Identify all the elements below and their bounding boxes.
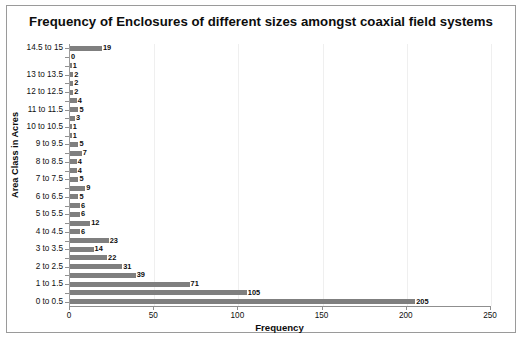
x-axis-line [69, 306, 490, 307]
x-tick-label-50: 50 [149, 311, 158, 320]
bar [70, 124, 72, 129]
bar-value-label: 31 [123, 263, 131, 270]
bar [70, 116, 75, 121]
bar-value-label: 2 [74, 79, 78, 86]
y-tick [65, 267, 69, 268]
bar [70, 63, 72, 68]
y-tick [65, 57, 69, 58]
bar-value-label: 1 [73, 123, 77, 130]
bar-value-label: 4 [78, 158, 82, 165]
chart-figure: Frequency of Enclosures of different siz… [0, 0, 523, 339]
bar-value-label: 0 [71, 53, 75, 60]
bar [70, 229, 80, 234]
y-tick [65, 179, 69, 180]
bar-value-label: 2 [74, 71, 78, 78]
gridline-x-200 [407, 44, 408, 306]
y-tick-label: 8 to 8.5 [3, 157, 63, 166]
x-tick-150 [322, 306, 323, 310]
y-tick-label: 13 to 13.5 [3, 70, 63, 79]
bar-value-label: 2 [74, 88, 78, 95]
bar [70, 107, 78, 112]
gridline-x-50 [154, 44, 155, 306]
y-tick [65, 232, 69, 233]
y-tick-label: 0 to 0.5 [3, 297, 63, 306]
bar [70, 212, 80, 217]
y-tick [65, 118, 69, 119]
y-tick [65, 214, 69, 215]
y-tick [65, 275, 69, 276]
y-tick [65, 171, 69, 172]
x-tick-label-200: 200 [399, 311, 413, 320]
bar [70, 90, 73, 95]
bar-value-label: 1 [73, 62, 77, 69]
y-tick-label: 6 to 6.5 [3, 192, 63, 201]
x-tick-label-0: 0 [67, 311, 72, 320]
bar-value-label: 9 [86, 184, 90, 191]
bar [70, 177, 78, 182]
y-tick [65, 293, 69, 294]
bar [70, 151, 82, 156]
bar-value-label: 7 [83, 149, 87, 156]
y-tick [65, 223, 69, 224]
y-tick-label: 14.5 to 15 [3, 43, 63, 52]
y-tick-label: 9 to 9.5 [3, 139, 63, 148]
bar-value-label: 1 [73, 132, 77, 139]
bar [70, 221, 90, 226]
bar [70, 247, 94, 252]
bar [70, 98, 77, 103]
bar-value-label: 12 [91, 219, 99, 226]
y-tick [65, 127, 69, 128]
y-tick [65, 206, 69, 207]
bar [70, 46, 102, 51]
y-tick [65, 188, 69, 189]
gridline-x-100 [238, 44, 239, 306]
bar [70, 159, 77, 164]
x-tick-250 [490, 306, 491, 310]
bar-value-label: 22 [108, 254, 116, 261]
y-tick [65, 75, 69, 76]
bar [70, 194, 78, 199]
bar [70, 273, 136, 278]
bar [70, 299, 415, 304]
bar-value-label: 3 [76, 114, 80, 121]
y-tick [65, 162, 69, 163]
bar [70, 282, 190, 287]
bar [70, 186, 85, 191]
y-tick-label: 2 to 2.5 [3, 262, 63, 271]
bar-value-label: 6 [81, 202, 85, 209]
gridline-x-150 [323, 44, 324, 306]
bar [70, 133, 72, 138]
y-tick-label: 7 to 7.5 [3, 174, 63, 183]
x-tick-label-150: 150 [315, 311, 329, 320]
bar [70, 255, 107, 260]
bar [70, 81, 73, 86]
bar-value-label: 5 [79, 175, 83, 182]
x-tick-label-250: 250 [483, 311, 497, 320]
bar [70, 168, 77, 173]
bar [70, 142, 78, 147]
bar-value-label: 6 [81, 210, 85, 217]
bar-value-label: 6 [81, 228, 85, 235]
bar [70, 203, 80, 208]
bar-value-label: 105 [248, 289, 260, 296]
y-tick-label: 11 to 11.5 [3, 105, 63, 114]
bar-value-label: 71 [191, 280, 199, 287]
x-tick-0 [69, 306, 70, 310]
y-tick [65, 249, 69, 250]
bar-value-label: 5 [79, 106, 83, 113]
y-tick [65, 258, 69, 259]
x-tick-200 [406, 306, 407, 310]
x-tick-50 [153, 306, 154, 310]
y-tick [65, 144, 69, 145]
y-tick-label: 1 to 1.5 [3, 279, 63, 288]
y-tick-labels: 0 to 0.51 to 1.52 to 2.53 to 3.54 to 4.5… [0, 0, 63, 339]
bar-value-label: 39 [137, 271, 145, 278]
bar-value-label: 4 [78, 97, 82, 104]
x-axis-label: Frequency [69, 322, 490, 333]
y-tick [65, 48, 69, 49]
y-tick-label: 3 to 3.5 [3, 244, 63, 253]
y-tick [65, 197, 69, 198]
y-tick [65, 153, 69, 154]
y-tick [65, 284, 69, 285]
bar-value-label: 23 [110, 237, 118, 244]
